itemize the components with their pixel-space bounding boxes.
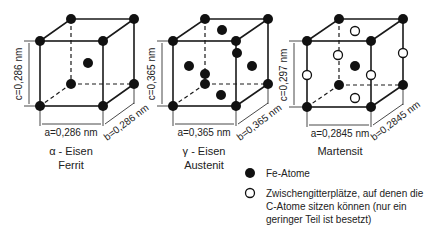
a-dimension-label: a=0,286 nm bbox=[44, 127, 97, 138]
martensit-title: Martensit bbox=[317, 145, 362, 157]
b-dimension-label: b=0,2845 nm bbox=[369, 99, 422, 143]
fe-atom-face-center-back bbox=[200, 69, 210, 79]
fe-atom bbox=[98, 36, 108, 46]
b-dimension-label: b=0,286 nm bbox=[102, 102, 151, 143]
c-dimension-label: c=0,297 nm bbox=[278, 49, 289, 102]
fe-atom bbox=[263, 79, 273, 89]
fe-atom bbox=[302, 36, 312, 46]
ferrit-title-line2: Ferrit bbox=[58, 159, 84, 171]
fe-atom bbox=[66, 79, 76, 89]
c-dimension-label: c=0,365 nm bbox=[146, 48, 157, 101]
right-face-edges bbox=[103, 19, 134, 106]
fe-atom bbox=[200, 79, 210, 89]
fe-atom bbox=[200, 14, 210, 24]
fe-atom bbox=[366, 36, 376, 46]
fe-atom bbox=[366, 102, 376, 112]
fe-atom-face-center-front bbox=[232, 48, 242, 58]
interstitial-site bbox=[367, 71, 376, 80]
fe-atom bbox=[98, 101, 108, 111]
fe-atom bbox=[334, 80, 344, 90]
legend-interstitial-line1: Zwischengitterplätze, auf denen die bbox=[266, 188, 424, 199]
interstitial-site bbox=[303, 71, 312, 80]
austenit-title-line2: Austenit bbox=[184, 159, 224, 171]
hidden-edge bbox=[173, 84, 205, 106]
fe-atom-face-center-bottom bbox=[216, 90, 226, 100]
a-dimension-label: a=0,2845 nm bbox=[311, 128, 370, 139]
interstitial-site bbox=[334, 51, 343, 60]
ferrit-cube: c=0,286 nm a=0,286 nm b=0,286 nm α - Eis… bbox=[13, 14, 151, 171]
fe-atom bbox=[168, 101, 178, 111]
a-dimension-label: a=0,365 nm bbox=[177, 127, 230, 138]
fe-atom-legend-icon bbox=[245, 168, 255, 178]
austenit-cube: c=0,365 nm a=0,365 nm b=0,365 nm γ - Eis… bbox=[146, 14, 284, 171]
interstitial-site bbox=[351, 27, 360, 36]
hidden-edge bbox=[307, 85, 339, 107]
fe-atom-body-center bbox=[83, 58, 93, 68]
fe-atom bbox=[334, 14, 344, 24]
legend-interstitial-line3: geringer Teil ist besetzt) bbox=[266, 214, 371, 225]
fe-atom bbox=[263, 14, 273, 24]
interstitial-site bbox=[399, 49, 408, 58]
c-dimension-label: c=0,286 nm bbox=[13, 48, 24, 101]
fe-atom bbox=[302, 102, 312, 112]
martensit-cube: c=0,297 nm a=0,2845 nm b=0,2845 nm Marte… bbox=[278, 14, 422, 157]
legend-fe-atoms: Fe-Atome bbox=[266, 168, 310, 179]
austenit-title-line1: γ - Eisen bbox=[183, 145, 226, 157]
b-dimension-label: b=0,365 nm bbox=[235, 102, 284, 143]
fe-atom-face-center-left bbox=[184, 61, 194, 71]
fe-atom bbox=[35, 101, 45, 111]
top-face-edges bbox=[40, 19, 134, 41]
fe-atoms bbox=[35, 14, 139, 111]
fe-atom bbox=[231, 101, 241, 111]
fe-atom bbox=[35, 36, 45, 46]
hidden-edge bbox=[40, 84, 71, 106]
iron-crystal-structures-diagram: c=0,286 nm a=0,286 nm b=0,286 nm α - Eis… bbox=[0, 0, 429, 232]
fe-atom bbox=[168, 36, 178, 46]
fe-atom-face-center-top bbox=[217, 25, 227, 35]
fe-atom-face-center-right bbox=[247, 61, 257, 71]
fe-atom bbox=[66, 14, 76, 24]
fe-atom-body-center bbox=[350, 61, 360, 71]
interstitial-site-legend-icon bbox=[246, 189, 255, 198]
right-face-edges bbox=[371, 19, 403, 107]
legend: Fe-Atome Zwischengitterplätze, auf denen… bbox=[245, 168, 424, 225]
fe-atoms bbox=[168, 14, 273, 111]
fe-atom bbox=[398, 14, 408, 24]
fe-atom bbox=[231, 36, 241, 46]
fe-atom bbox=[398, 80, 408, 90]
legend-interstitial-line2: C-Atome sitzen können (nur ein bbox=[266, 201, 407, 212]
fe-atom bbox=[129, 14, 139, 24]
interstitial-site bbox=[351, 94, 360, 103]
ferrit-title-line1: α - Eisen bbox=[49, 145, 93, 157]
fe-atom bbox=[129, 79, 139, 89]
